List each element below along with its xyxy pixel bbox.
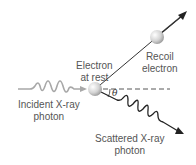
label-recoil-electron: Recoil electron — [142, 51, 178, 75]
recoil-electron — [150, 30, 164, 44]
theta-label: θ — [112, 88, 117, 98]
label-electron-at-rest: Electron at rest — [76, 60, 113, 84]
electron-at-rest — [88, 82, 102, 96]
label-scattered-photon: Scattered X-ray photon — [95, 133, 164, 157]
scattered-wave — [101, 92, 184, 134]
label-incident-photon: Incident X-ray photon — [18, 99, 80, 123]
incident-arrow-icon — [80, 86, 87, 92]
